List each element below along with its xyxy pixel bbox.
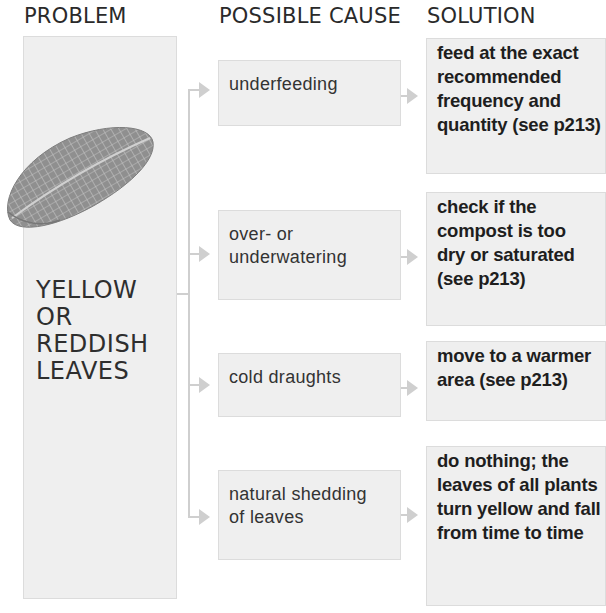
solution-line: turn yellow and fall bbox=[437, 497, 601, 521]
cause-box-watering: over- or underwatering bbox=[218, 210, 401, 300]
connector-vertical-end bbox=[188, 500, 190, 518]
arrow-right-icon bbox=[199, 377, 210, 393]
arrow-right-icon bbox=[407, 88, 418, 104]
solution-text: do nothing; the leaves of all plants tur… bbox=[437, 449, 601, 545]
cause-text: natural shedding of leaves bbox=[229, 483, 367, 529]
leaf-icon bbox=[0, 120, 160, 240]
cause-line: natural shedding bbox=[229, 483, 367, 506]
solution-line: do nothing; the bbox=[437, 449, 601, 473]
cause-box-cold-draughts: cold draughts bbox=[218, 353, 401, 417]
arrow-right-icon bbox=[199, 82, 210, 98]
solution-line: dry or saturated bbox=[437, 243, 575, 267]
problem-label: YELLOW OR REDDISH LEAVES bbox=[36, 277, 149, 385]
solution-box-4: do nothing; the leaves of all plants tur… bbox=[426, 446, 606, 606]
cause-line: over- or bbox=[229, 223, 347, 246]
solution-box-1: feed at the exact recommended frequency … bbox=[426, 38, 606, 174]
solution-box-2: check if the compost is too dry or satur… bbox=[426, 192, 606, 326]
solution-line: area (see p213) bbox=[437, 368, 591, 392]
solution-line: compost is too bbox=[437, 219, 575, 243]
problem-line: YELLOW bbox=[36, 277, 149, 304]
cause-line: underwatering bbox=[229, 246, 347, 269]
solution-text: move to a warmer area (see p213) bbox=[437, 344, 591, 392]
arrow-right-icon bbox=[199, 509, 210, 525]
solution-text: check if the compost is too dry or satur… bbox=[437, 195, 575, 291]
connector-vertical bbox=[188, 90, 190, 505]
header-problem: PROBLEM bbox=[24, 4, 127, 28]
connector-trunk bbox=[177, 293, 189, 295]
cause-line: of leaves bbox=[229, 506, 367, 529]
solution-line: check if the bbox=[437, 195, 575, 219]
cause-text: cold draughts bbox=[229, 366, 341, 389]
problem-line: OR bbox=[36, 304, 149, 331]
solution-line: recommended bbox=[437, 65, 601, 89]
arrow-right-icon bbox=[407, 507, 418, 523]
cause-line: underfeeding bbox=[229, 73, 338, 96]
arrow-right-icon bbox=[407, 380, 418, 396]
problem-line: REDDISH bbox=[36, 331, 149, 358]
solution-box-3: move to a warmer area (see p213) bbox=[426, 341, 606, 421]
solution-line: feed at the exact bbox=[437, 41, 601, 65]
header-solution: SOLUTION bbox=[427, 4, 536, 28]
cause-box-natural-shedding: natural shedding of leaves bbox=[218, 470, 401, 560]
cause-box-underfeeding: underfeeding bbox=[218, 60, 401, 126]
solution-text: feed at the exact recommended frequency … bbox=[437, 41, 601, 137]
solution-line: move to a warmer bbox=[437, 344, 591, 368]
solution-line: leaves of all plants bbox=[437, 473, 601, 497]
solution-line: frequency and bbox=[437, 89, 601, 113]
cause-text: over- or underwatering bbox=[229, 223, 347, 269]
cause-line: cold draughts bbox=[229, 366, 341, 389]
solution-line: quantity (see p213) bbox=[437, 113, 601, 137]
problem-line: LEAVES bbox=[36, 358, 149, 385]
arrow-right-icon bbox=[199, 246, 210, 262]
solution-line: (see p213) bbox=[437, 267, 575, 291]
header-possible-cause: POSSIBLE CAUSE bbox=[219, 4, 401, 28]
solution-line: from time to time bbox=[437, 521, 601, 545]
arrow-right-icon bbox=[407, 249, 418, 265]
cause-text: underfeeding bbox=[229, 73, 338, 96]
